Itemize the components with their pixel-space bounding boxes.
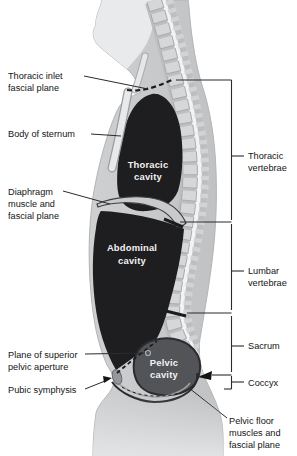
label-pelvic-floor-line2: muscles and <box>229 428 281 438</box>
label-thoracic-inlet-line2: fascial plane <box>8 83 59 93</box>
label-diaphragm-line1: Diaphragm <box>8 187 53 197</box>
label-pelvic-floor-line3: fascial plane <box>229 440 280 450</box>
pelvic-cavity-label-line1: Pelvic <box>150 357 178 368</box>
label-thoracic-inlet-line1: Thoracic inlet <box>8 71 63 81</box>
abdominal-cavity-label-line2: cavity <box>118 255 146 266</box>
label-sacrum: Sacrum <box>248 341 280 351</box>
thoracic-cavity-label-line2: cavity <box>134 171 162 182</box>
label-pelvic-aperture-line1: Plane of superior <box>8 350 77 360</box>
label-diaphragm-line3: fascial plane <box>8 211 59 221</box>
anatomy-diagram-page: Thoracic cavity Abdominal cavity Pelvic … <box>0 0 297 456</box>
label-pubic-symphysis: Pubic symphysis <box>8 385 77 395</box>
abdominal-cavity-label-line1: Abdominal <box>107 242 157 253</box>
label-pelvic-floor-line1: Pelvic floor <box>229 416 274 426</box>
label-thoracic-vertebrae-line2: vertebrae <box>248 163 287 173</box>
label-pelvic-aperture-line2: pelvic aperture <box>8 362 68 372</box>
label-body-of-sternum: Body of sternum <box>8 129 75 139</box>
label-diaphragm-line2: muscle and <box>8 199 55 209</box>
label-lumbar-vertebrae-line1: Lumbar <box>248 266 279 276</box>
label-coccyx: Coccyx <box>248 378 279 388</box>
label-lumbar-vertebrae-line2: vertebrae <box>248 278 287 288</box>
anatomy-figure: Thoracic cavity Abdominal cavity Pelvic … <box>0 0 297 456</box>
label-thoracic-vertebrae-line1: Thoracic <box>248 151 284 161</box>
thoracic-cavity-label-line1: Thoracic <box>128 159 169 170</box>
pelvic-cavity-label-line2: cavity <box>150 369 178 380</box>
